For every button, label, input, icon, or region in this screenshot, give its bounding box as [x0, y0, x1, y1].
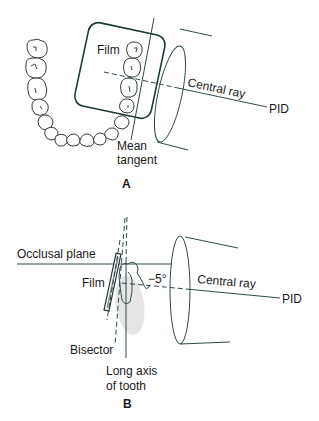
- panel-b: Occlusal plane Film −5° Central ray PID …: [17, 215, 302, 411]
- tooth: [55, 134, 68, 146]
- tooth: [115, 116, 130, 129]
- label-long-axis-1: Long axis: [106, 364, 157, 378]
- label-film-a: Film: [97, 43, 120, 57]
- label-central-ray-a: Central ray: [186, 75, 246, 101]
- tooth: [124, 58, 141, 77]
- label-pid-a: PID: [269, 102, 289, 116]
- label-occlusal-plane: Occlusal plane: [17, 247, 96, 261]
- panel-label-b: B: [123, 397, 132, 411]
- tooth: [67, 134, 81, 146]
- label-film-b: Film: [82, 276, 105, 290]
- panel-a: Film Central ray PID Mean tangent A: [26, 18, 290, 191]
- label-angle: −5°: [148, 272, 167, 286]
- tooth: [120, 99, 135, 113]
- pid-cylinder-b: [170, 236, 238, 344]
- tooth: [32, 99, 48, 116]
- label-bisector: Bisector: [70, 343, 113, 357]
- tooth: [94, 133, 107, 145]
- tooth: [28, 78, 47, 100]
- long-axis-dashed: [126, 215, 127, 262]
- central-ray-b: [186, 289, 280, 298]
- tooth: [27, 39, 47, 58]
- tooth: [26, 58, 46, 79]
- label-central-ray-b: Central ray: [197, 272, 257, 291]
- panel-label-a: A: [122, 177, 131, 191]
- label-pid-b: PID: [282, 292, 302, 306]
- label-long-axis-2: of tooth: [106, 379, 146, 393]
- label-mean-tangent-2: tangent: [117, 153, 158, 167]
- label-mean-tangent-1: Mean: [117, 139, 147, 153]
- tooth: [127, 42, 143, 58]
- tooth: [80, 134, 94, 146]
- radiography-diagram: Film Central ray PID Mean tangent A: [0, 0, 319, 421]
